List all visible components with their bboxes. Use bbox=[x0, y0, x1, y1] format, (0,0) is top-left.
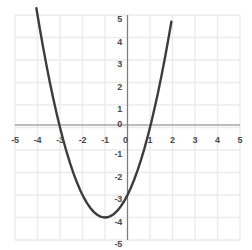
y-tick-label: -1 bbox=[106, 150, 122, 159]
y-tick-label: 2 bbox=[106, 82, 122, 91]
parabola-graph-figure: -5-4-3-2-1012345 543210-1-2-3-4-5 bbox=[0, 0, 252, 250]
x-tick-label: 2 bbox=[170, 136, 175, 145]
x-tick-label: -4 bbox=[34, 136, 42, 145]
y-tick-label: 5 bbox=[106, 15, 122, 24]
parabola-curve bbox=[36, 8, 171, 217]
x-tick-label: 5 bbox=[238, 136, 243, 145]
x-tick-label: 3 bbox=[193, 136, 198, 145]
x-tick-label: -5 bbox=[11, 136, 19, 145]
x-tick-label: 0 bbox=[123, 136, 128, 145]
y-tick-label: -4 bbox=[106, 217, 122, 226]
y-tick-label: 1 bbox=[106, 105, 122, 114]
y-tick-label: -3 bbox=[106, 195, 122, 204]
y-tick-label: 0 bbox=[106, 119, 122, 128]
y-tick-label: 4 bbox=[106, 37, 122, 46]
x-tick-label: -2 bbox=[79, 136, 87, 145]
x-tick-label: -3 bbox=[56, 136, 64, 145]
x-tick-label: -1 bbox=[101, 136, 109, 145]
y-tick-label: -2 bbox=[106, 172, 122, 181]
y-tick-label: 3 bbox=[106, 60, 122, 69]
y-tick-label: -5 bbox=[106, 240, 122, 249]
coordinate-plane-svg bbox=[0, 0, 252, 250]
x-tick-label: 4 bbox=[215, 136, 220, 145]
x-tick-label: 1 bbox=[148, 136, 153, 145]
